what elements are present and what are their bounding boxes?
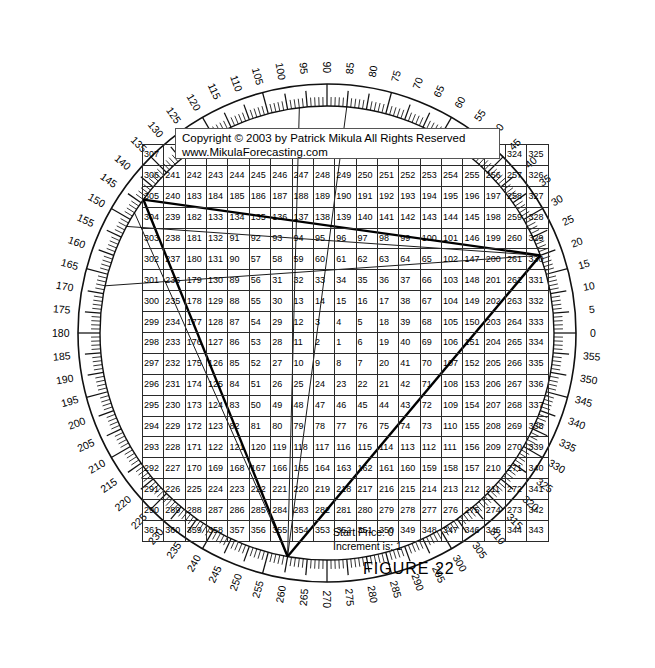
- degree-tick: [250, 110, 253, 119]
- grid-cell: 305: [143, 186, 164, 207]
- grid-cell: 291: [143, 479, 164, 500]
- grid-cell: 212: [463, 479, 484, 500]
- degree-tick: [378, 103, 380, 112]
- degree-tick: [88, 291, 104, 294]
- grid-cell: 176: [185, 333, 206, 354]
- grid-cell: 109: [442, 395, 463, 416]
- degree-tick: [553, 317, 562, 318]
- degree-tick: [370, 101, 372, 110]
- grid-cell: 197: [484, 186, 505, 207]
- degree-tick: [553, 308, 562, 309]
- grid-cell: 256: [484, 165, 505, 186]
- grid-cell: 237: [164, 249, 185, 270]
- grid-cell: 126: [207, 353, 228, 374]
- grid-cell: 268: [506, 395, 527, 416]
- grid-cell: 178: [185, 291, 206, 312]
- grid-cell: 26: [271, 374, 292, 395]
- grid-cell: 285: [249, 500, 270, 521]
- spiral-table: 3073083093103113123133143153163173183193…: [142, 144, 549, 542]
- degree-tick: [242, 545, 245, 553]
- grid-cell: 136: [271, 207, 292, 228]
- degree-label: 185: [53, 350, 71, 362]
- grid-cell: 280: [356, 500, 377, 521]
- grid-cell: 230: [164, 395, 185, 416]
- degree-tick: [311, 559, 312, 568]
- grid-cell: 258: [506, 186, 527, 207]
- grid-cell: 234: [164, 312, 185, 333]
- degree-tick: [548, 384, 557, 386]
- degree-tick: [302, 98, 303, 107]
- degree-tick: [93, 361, 102, 362]
- grid-cell: 20: [377, 353, 398, 374]
- grid-cell: 61: [335, 249, 356, 270]
- grid-cell: 140: [356, 207, 377, 228]
- grid-cell: 164: [313, 458, 334, 479]
- grid-cell: 287: [207, 500, 228, 521]
- degree-tick: [127, 208, 135, 213]
- grid-cell: 142: [399, 207, 420, 228]
- grid-cell: 165: [292, 458, 313, 479]
- grid-cell: 56: [249, 270, 270, 291]
- grid-cell: 119: [271, 437, 292, 458]
- grid-cell: 117: [313, 437, 334, 458]
- grid-cell: 38: [399, 291, 420, 312]
- degree-tick: [551, 291, 567, 294]
- grid-cell: 214: [420, 479, 441, 500]
- degree-tick: [108, 418, 116, 421]
- grid-cell: 259: [506, 207, 527, 228]
- grid-cell: 49: [271, 395, 292, 416]
- grid-cell: 193: [399, 186, 420, 207]
- degree-tick: [115, 230, 123, 234]
- grid-cell: 177: [185, 312, 206, 333]
- grid-cell: 180: [185, 249, 206, 270]
- grid-cell: 175: [185, 353, 206, 374]
- grid-cell: 7: [356, 353, 377, 374]
- degree-tick: [93, 365, 102, 366]
- grid-cell: 52: [249, 353, 270, 374]
- degree-tick: [235, 116, 239, 124]
- table-row: 2902892882872862852842832822812802792782…: [143, 500, 549, 521]
- grid-cell: 159: [420, 458, 441, 479]
- grid-cell: 105: [442, 312, 463, 333]
- grid-cell: 100: [420, 228, 441, 249]
- grid-cell: 206: [484, 374, 505, 395]
- grid-cell: 3: [313, 312, 334, 333]
- grid-cell: 69: [420, 333, 441, 354]
- degree-tick: [107, 414, 115, 417]
- grid-cell: 62: [356, 249, 377, 270]
- grid-cell: 172: [185, 416, 206, 437]
- degree-label: 15: [577, 257, 591, 270]
- grid-cell: 170: [185, 458, 206, 479]
- grid-cell: 120: [249, 437, 270, 458]
- grid-cell: 169: [207, 458, 228, 479]
- degree-tick: [290, 557, 291, 566]
- grid-cell: 8: [335, 353, 356, 374]
- degree-tick: [94, 369, 103, 370]
- grid-cell: 150: [463, 312, 484, 333]
- degree-label: 95: [298, 61, 309, 74]
- grid-cell: 162: [356, 458, 377, 479]
- grid-cell: 19: [377, 333, 398, 354]
- grid-cell: 339: [527, 437, 548, 458]
- grid-cell: 24: [313, 374, 334, 395]
- degree-tick: [101, 264, 110, 267]
- grid-cell: 50: [249, 395, 270, 416]
- degree-tick: [408, 113, 411, 121]
- grid-cell: 102: [442, 249, 463, 270]
- grid-cell: 94: [292, 228, 313, 249]
- degree-tick: [92, 317, 101, 318]
- figure-canvas: 0510152025303540455055606570758085909510…: [0, 0, 655, 668]
- grid-cell: 324: [506, 145, 527, 166]
- degree-tick: [553, 349, 562, 350]
- grid-cell: 340: [527, 458, 548, 479]
- figure-title: FIGURE 22: [363, 560, 455, 578]
- grid-cell: 192: [377, 186, 398, 207]
- grid-cell: 195: [442, 186, 463, 207]
- table-row: 3062412422432442452462472482492502512522…: [143, 165, 549, 186]
- grid-cell: 135: [249, 207, 270, 228]
- grid-cell: 145: [463, 207, 484, 228]
- degree-tick: [125, 211, 133, 216]
- grid-cell: 95: [313, 228, 334, 249]
- grid-cell: 227: [164, 458, 185, 479]
- degree-tick: [85, 353, 101, 354]
